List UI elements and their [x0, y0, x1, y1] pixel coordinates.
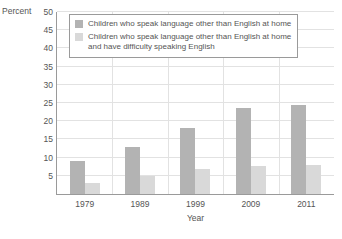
bar	[251, 166, 266, 194]
bar	[85, 183, 100, 194]
x-tick-label: 2011	[297, 199, 315, 209]
bar	[195, 169, 210, 194]
chart-legend: Children who speak language other than E…	[69, 14, 298, 58]
bar	[180, 128, 195, 194]
bar	[236, 108, 251, 194]
y-tick-label: 5	[48, 171, 53, 181]
bar	[125, 147, 140, 194]
y-axis-title: Percent	[2, 6, 31, 16]
legend-item: Children who speak language other than E…	[75, 19, 291, 29]
y-tick-label: 50	[44, 7, 53, 17]
y-tick-label: 40	[44, 43, 53, 53]
x-tick-label: 1989	[131, 199, 150, 209]
y-tick-label: 10	[44, 153, 53, 163]
y-tick-label: 15	[44, 134, 53, 144]
y-tick-label: 30	[44, 80, 53, 90]
legend-item: Children who speak language other than E…	[75, 32, 291, 52]
y-tick-label: 20	[44, 116, 53, 126]
bar	[291, 105, 306, 194]
bar	[306, 165, 321, 194]
legend-label: Children who speak language other than E…	[88, 19, 291, 29]
bar-chart: Percent 5101520253035404550 197919891999…	[0, 0, 342, 239]
y-tick-label: 45	[44, 25, 53, 35]
x-axis-title: Year	[187, 213, 204, 223]
x-tick-label: 1979	[75, 199, 94, 209]
legend-swatch-icon	[75, 20, 83, 28]
legend-swatch-icon	[75, 33, 83, 41]
legend-label: Children who speak language other than E…	[88, 32, 291, 52]
x-tick-label: 1999	[186, 199, 205, 209]
y-tick-label: 35	[44, 62, 53, 72]
bar	[140, 176, 155, 194]
bar	[70, 161, 85, 194]
x-tick-label: 2009	[241, 199, 260, 209]
y-tick-label: 25	[44, 98, 53, 108]
